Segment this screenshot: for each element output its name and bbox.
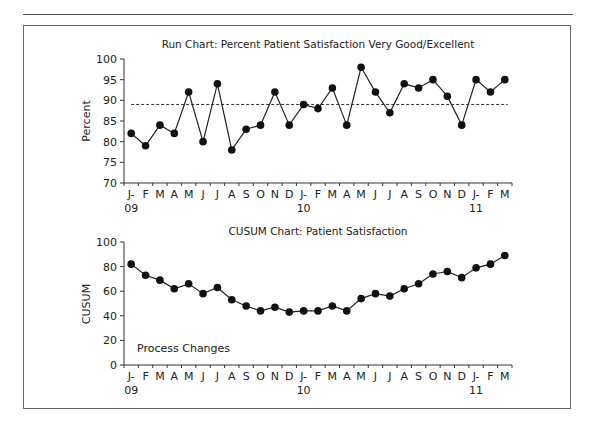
data-point <box>357 63 365 71</box>
data-point <box>185 280 193 288</box>
data-point <box>444 268 452 276</box>
x-tick-label: J <box>200 370 204 383</box>
y-tick-label: 0 <box>110 359 117 372</box>
cusum-chart: CUSUM Chart: Patient Satisfaction CUSUM … <box>80 225 512 397</box>
run-chart-axes: 707580859095100J-09FMAMJJASONDJ-10FMAMJJ… <box>96 53 512 215</box>
y-tick-label: 100 <box>96 236 117 249</box>
x-tick-label: F <box>142 370 148 383</box>
y-tick-label: 75 <box>103 156 117 169</box>
x-tick-label: F <box>487 370 493 383</box>
x-tick-label: J <box>373 370 377 383</box>
y-tick-label: 70 <box>103 177 117 190</box>
process-changes-annotation: Process Changes <box>137 342 230 355</box>
x-tick-label: J <box>373 188 377 201</box>
data-point <box>400 80 408 88</box>
run-chart: Run Chart: Percent Patient Satisfaction … <box>80 38 512 215</box>
data-point <box>329 302 337 310</box>
y-tick-label: 95 <box>103 74 117 87</box>
x-tick-label: A <box>343 188 351 201</box>
x-tick-label: M <box>155 188 165 201</box>
x-tick-label: O <box>256 188 265 201</box>
x-tick-label: O <box>256 370 265 383</box>
x-tick-label: O <box>429 188 438 201</box>
x-tick-label: N <box>271 370 279 383</box>
x-tick-label: S <box>415 188 422 201</box>
data-point <box>386 292 394 300</box>
data-point <box>501 76 509 84</box>
y-tick-label: 90 <box>103 94 117 107</box>
data-point <box>329 84 337 92</box>
data-point <box>142 271 150 279</box>
x-tick-year-label: 11 <box>469 384 483 397</box>
x-tick-label: J- <box>472 370 480 383</box>
x-tick-label: F <box>487 188 493 201</box>
data-point <box>142 142 150 150</box>
data-point <box>156 121 164 129</box>
cusum-chart-series <box>127 252 508 316</box>
x-tick-label: F <box>315 370 321 383</box>
y-tick-label: 80 <box>103 136 117 149</box>
data-point <box>343 307 351 315</box>
data-point <box>156 276 164 284</box>
data-point <box>314 105 322 113</box>
cusum-chart-axes: 020406080100J-09FMAMJJASONDJ-10FMAMJJASO… <box>96 236 512 397</box>
x-tick-label: N <box>443 370 451 383</box>
data-point <box>458 274 466 282</box>
data-point <box>415 84 423 92</box>
x-tick-label: D <box>285 370 293 383</box>
x-tick-label: D <box>457 188 465 201</box>
data-point <box>487 260 495 268</box>
y-tick-label: 100 <box>96 53 117 66</box>
x-tick-label: J- <box>127 188 135 201</box>
x-tick-label: J- <box>472 188 480 201</box>
data-point <box>127 260 135 268</box>
x-tick-year-label: 10 <box>297 202 311 215</box>
data-point <box>199 138 207 146</box>
y-tick-label: 85 <box>103 115 117 128</box>
data-point <box>300 307 308 315</box>
x-tick-label: N <box>443 188 451 201</box>
x-tick-label: J <box>215 370 219 383</box>
x-tick-label: M <box>184 370 194 383</box>
x-tick-label: N <box>271 188 279 201</box>
x-tick-year-label: 10 <box>297 384 311 397</box>
x-tick-year-label: 11 <box>469 202 483 215</box>
x-tick-label: D <box>457 370 465 383</box>
data-point <box>472 76 480 84</box>
data-point <box>501 252 509 260</box>
data-point <box>357 295 365 303</box>
y-tick-label: 20 <box>103 334 117 347</box>
x-tick-label: S <box>243 370 250 383</box>
x-tick-label: J <box>215 188 219 201</box>
data-point <box>214 284 222 292</box>
run-chart-y-axis-title: Percent <box>80 100 93 142</box>
y-tick-label: 40 <box>103 310 117 323</box>
data-point <box>386 109 394 117</box>
data-point <box>400 285 408 293</box>
x-tick-label: A <box>400 370 408 383</box>
data-point <box>199 290 207 298</box>
x-tick-label: M <box>356 370 366 383</box>
x-tick-label: M <box>356 188 366 201</box>
y-tick-label: 80 <box>103 261 117 274</box>
data-point <box>257 121 265 129</box>
data-point <box>271 88 279 96</box>
data-point <box>242 125 250 133</box>
data-point <box>285 308 293 316</box>
x-tick-label: A <box>228 370 236 383</box>
x-tick-label: J <box>387 188 391 201</box>
cusum-chart-title: CUSUM Chart: Patient Satisfaction <box>228 225 407 237</box>
data-point <box>300 101 308 109</box>
x-tick-label: M <box>328 370 338 383</box>
x-tick-label: O <box>429 370 438 383</box>
x-tick-label: J- <box>299 188 307 201</box>
y-tick-label: 60 <box>103 285 117 298</box>
data-point <box>170 130 178 138</box>
charts: Run Chart: Percent Patient Satisfaction … <box>0 0 595 433</box>
data-point <box>228 296 236 304</box>
data-point <box>444 92 452 100</box>
data-point <box>285 121 293 129</box>
data-point <box>214 80 222 88</box>
cusum-chart-y-axis-title: CUSUM <box>80 284 93 324</box>
x-tick-label: S <box>415 370 422 383</box>
